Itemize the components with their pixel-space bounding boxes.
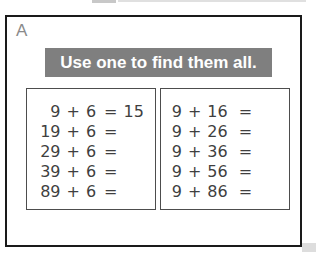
equation-row: 9 + 86 = [161, 181, 289, 201]
addend-first: 9 [168, 102, 182, 121]
addend-second: 56 [207, 162, 227, 181]
addend-first: 29 [35, 142, 61, 161]
addend-second: 6 [86, 162, 96, 181]
addend-first: 9 [168, 142, 182, 161]
instruction-banner: Use one to find them all. [45, 48, 272, 77]
equals-sign: = [239, 102, 252, 121]
addend-first: 9 [168, 182, 182, 201]
addend-first: 9 [35, 102, 61, 121]
equation-row: 9 + 56 = [161, 161, 289, 181]
equals-sign: = [104, 142, 117, 161]
equation-row: 19 + 6 = [27, 121, 155, 141]
addend-first: 39 [35, 162, 61, 181]
plus-sign: + [188, 122, 201, 141]
answer-value: 15 [124, 102, 148, 121]
plus-sign: + [67, 102, 80, 121]
equals-sign: = [239, 162, 252, 181]
equation-row: 9 + 36 = [161, 141, 289, 161]
plus-sign: + [188, 162, 201, 181]
addend-second: 6 [86, 102, 96, 121]
worksheet-panel: A Use one to find them all. 9 + 6 = 15 1… [0, 0, 317, 257]
plus-sign: + [67, 182, 80, 201]
panel-label: A [16, 22, 27, 39]
scan-artifact-corner [302, 243, 316, 252]
addend-second: 6 [86, 122, 96, 141]
plus-sign: + [67, 162, 80, 181]
addend-second: 6 [86, 142, 96, 161]
scan-artifact-top-light [118, 0, 306, 2]
plus-sign: + [188, 182, 201, 201]
plus-sign: + [188, 142, 201, 161]
equals-sign: = [104, 122, 117, 141]
plus-sign: + [188, 102, 201, 121]
addend-first: 89 [35, 182, 61, 201]
addend-first: 19 [35, 122, 61, 141]
equation-row: 9 + 16 = [161, 101, 289, 121]
plus-sign: + [67, 142, 80, 161]
addend-second: 86 [207, 182, 227, 201]
equals-sign: = [104, 182, 117, 201]
equals-sign: = [239, 182, 252, 201]
addend-second: 6 [86, 182, 96, 201]
addend-second: 36 [207, 142, 227, 161]
equation-row: 9 + 6 = 15 [27, 101, 155, 121]
equation-row: 9 + 26 = [161, 121, 289, 141]
equation-row: 89 + 6 = [27, 181, 155, 201]
problem-box-right: 9 + 16 = 9 + 26 = 9 + 36 = 9 [160, 88, 290, 210]
panel-frame: A Use one to find them all. 9 + 6 = 15 1… [5, 15, 302, 247]
equals-sign: = [104, 102, 117, 121]
equals-sign: = [239, 122, 252, 141]
addend-first: 9 [168, 162, 182, 181]
equation-row: 39 + 6 = [27, 161, 155, 181]
equals-sign: = [239, 142, 252, 161]
equals-sign: = [104, 162, 117, 181]
equation-row: 29 + 6 = [27, 141, 155, 161]
instruction-text: Use one to find them all. [60, 53, 256, 73]
scan-artifact-top [92, 0, 116, 3]
plus-sign: + [67, 122, 80, 141]
problem-box-left: 9 + 6 = 15 19 + 6 = 29 + 6 = 39 [26, 88, 156, 210]
addend-first: 9 [168, 122, 182, 141]
addend-second: 16 [207, 102, 227, 121]
addend-second: 26 [207, 122, 227, 141]
